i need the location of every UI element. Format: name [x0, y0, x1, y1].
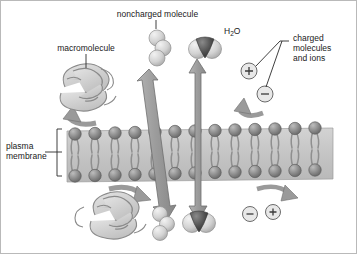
- ion-blocked-arrow-bottom: [257, 185, 298, 201]
- label-charged-molecules: charged molecules and ions: [293, 33, 355, 63]
- ion-plus-top: [241, 63, 257, 79]
- leader-charged-plus: [256, 41, 289, 66]
- label-plasma-membrane: plasma membrane: [6, 141, 50, 161]
- permeability-diagram: noncharged molecule H2O macromolecule ch…: [0, 0, 357, 254]
- ion-plus-bottom: [266, 205, 281, 220]
- ion-minus-bottom: [243, 207, 258, 222]
- macromolecule-bottom: [75, 192, 146, 239]
- leader-charged-minus: [266, 41, 282, 87]
- label-noncharged-molecule: noncharged molecule: [100, 9, 215, 19]
- water-molecule-top: [189, 37, 222, 59]
- macromolecule-top: [60, 64, 116, 111]
- label-macromolecule: macromolecule: [37, 43, 135, 53]
- bracket-plasma-membrane: [57, 129, 62, 176]
- water-molecule-bottom: [183, 211, 216, 233]
- noncharged-molecule-top: [149, 30, 171, 66]
- ion-minus-top: [257, 86, 273, 102]
- label-water: H2O: [224, 26, 264, 39]
- ion-blocked-arrow-top: [234, 98, 263, 116]
